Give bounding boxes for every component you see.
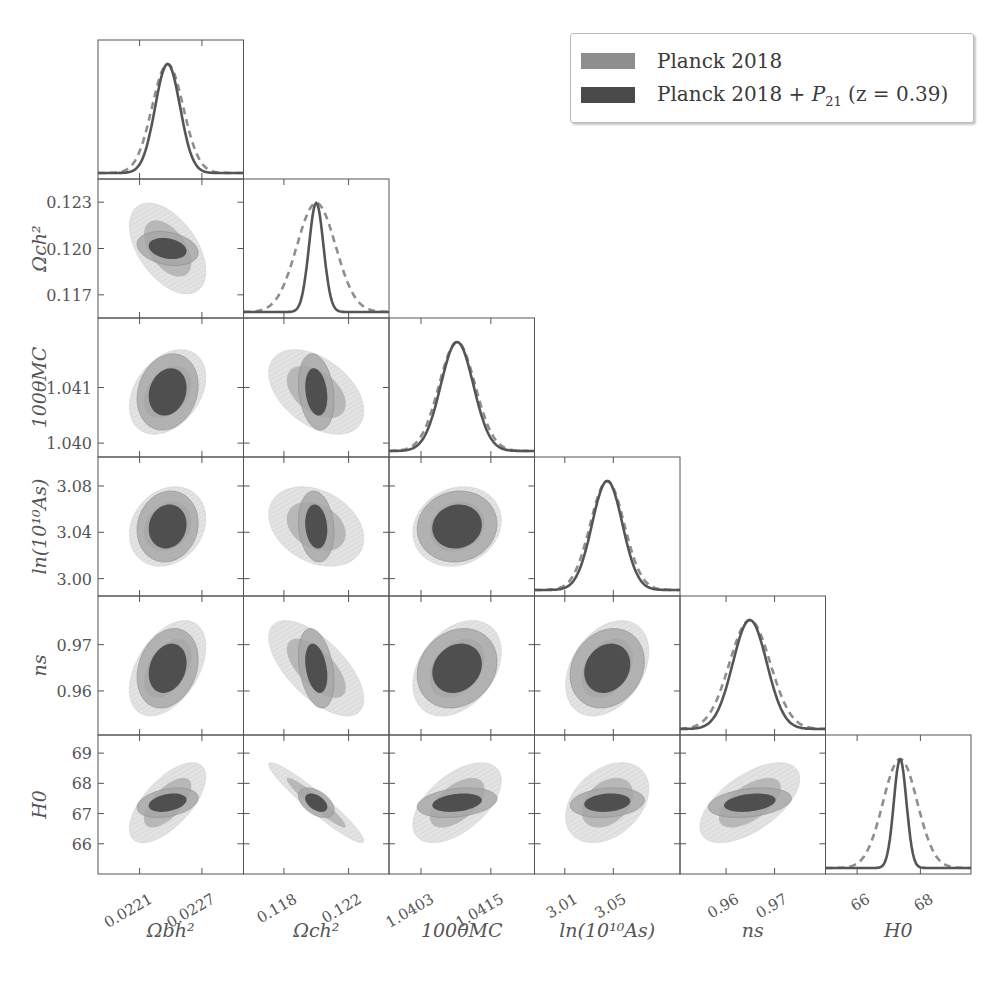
panel-theta-theta <box>389 318 535 457</box>
x-tick-label: 0.97 <box>753 890 791 922</box>
legend: Planck 2018 Planck 2018 + P21 (z = 0.39) <box>570 33 974 123</box>
panel-ombh2-ombh2 <box>98 40 244 179</box>
y-tick-label: 3.00 <box>56 570 92 589</box>
legend-entry-planck: Planck 2018 <box>581 46 782 76</box>
y-tick-label: 3.04 <box>56 523 92 542</box>
y-axis-label-logA: ln(10¹⁰As) <box>28 478 50 574</box>
y-tick-label: 67 <box>72 805 92 824</box>
y-tick-label: 0.123 <box>46 193 92 212</box>
panel-ns-logA <box>535 596 681 735</box>
y-tick-label: 68 <box>72 774 92 793</box>
y-axis-label-H0: H0 <box>28 790 50 820</box>
y-tick-label: 1.040 <box>46 434 92 453</box>
panel-logA-logA <box>535 457 681 596</box>
panel-H0-ns <box>680 735 826 874</box>
y-tick-label: 0.96 <box>56 682 92 701</box>
x-axis-label-H0: H0 <box>883 919 913 941</box>
panel-logA-ombh2 <box>98 457 244 596</box>
panel-ns-omch2 <box>244 596 390 735</box>
y-tick-label: 69 <box>72 744 92 763</box>
y-tick-label: 0.97 <box>56 636 92 655</box>
y-tick-label: 0.117 <box>46 286 92 305</box>
legend-swatch-planck-p21 <box>581 87 635 103</box>
x-tick-label: 66 <box>848 890 874 915</box>
panel-logA-theta <box>389 457 535 596</box>
y-tick-label: 66 <box>72 835 92 854</box>
x-axis-label-theta: 100θMC <box>421 919 503 941</box>
panel-ns-ns <box>680 596 826 735</box>
panel-omch2-omch2 <box>244 179 390 318</box>
panel-H0-theta <box>389 735 535 874</box>
y-tick-label: 3.08 <box>56 477 92 496</box>
panel-theta-ombh2 <box>98 318 244 457</box>
x-tick-label: 3.01 <box>543 890 581 922</box>
y-tick-label: 1.041 <box>46 379 92 398</box>
panel-ns-theta <box>389 596 535 735</box>
corner-plot: 0.1170.1200.123Ωch²1.0401.041100θMC3.003… <box>0 0 1003 987</box>
x-axis-label-ns: ns <box>742 919 764 941</box>
legend-swatch-planck <box>581 53 635 69</box>
panel-theta-omch2 <box>244 318 390 457</box>
panel-H0-logA <box>535 735 681 874</box>
y-axis-label-ns: ns <box>28 654 50 676</box>
x-axis-label-logA: ln(10¹⁰As) <box>559 919 655 941</box>
legend-label-planck-p21: Planck 2018 + P21 (z = 0.39) <box>657 82 948 109</box>
panel-logA-omch2 <box>244 457 390 596</box>
y-axis-label-theta: 100θMC <box>28 346 50 428</box>
x-axis-label-omch2: Ωch² <box>292 919 339 941</box>
panel-H0-ombh2 <box>98 735 244 874</box>
x-axis-label-ombh2: Ωbh² <box>146 919 195 941</box>
panel-H0-omch2 <box>244 735 390 874</box>
y-axis-label-omch2: Ωch² <box>28 225 50 272</box>
panel-omch2-ombh2 <box>98 179 244 318</box>
legend-entry-planck-p21: Planck 2018 + P21 (z = 0.39) <box>581 80 948 110</box>
y-tick-label: 0.120 <box>46 240 92 259</box>
x-tick-label: 0.96 <box>704 890 742 922</box>
panel-H0-H0 <box>826 735 972 874</box>
panel-ns-ombh2 <box>98 596 244 735</box>
legend-label-planck: Planck 2018 <box>657 49 782 73</box>
x-tick-label: 68 <box>911 890 937 915</box>
x-tick-label: 3.05 <box>591 890 629 922</box>
